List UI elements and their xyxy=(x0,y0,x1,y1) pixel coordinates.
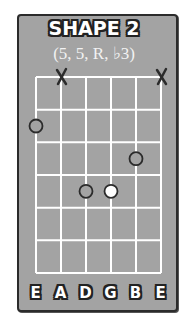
string-labels: EADGBE xyxy=(0,282,188,306)
note-dot xyxy=(30,120,43,133)
string-label: E xyxy=(26,282,46,304)
string-label: B xyxy=(126,282,146,304)
root-note-dot xyxy=(105,185,118,198)
string-label: A xyxy=(51,282,71,304)
string-label: E xyxy=(151,282,171,304)
note-dot xyxy=(130,152,143,165)
string-label: G xyxy=(101,282,121,304)
note-dot xyxy=(80,185,93,198)
string-label: D xyxy=(76,282,96,304)
